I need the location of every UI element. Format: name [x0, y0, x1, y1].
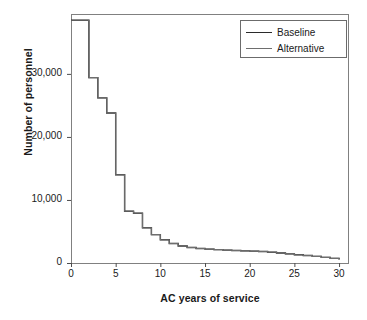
- legend-swatch-baseline: [246, 32, 272, 33]
- y-tick-label: 30,000: [16, 67, 62, 78]
- legend-swatch-alternative: [246, 48, 272, 49]
- x-tick-label: 25: [274, 268, 314, 279]
- legend-item-alternative: Alternative: [246, 40, 324, 56]
- x-tick-label: 20: [230, 268, 270, 279]
- legend-label-baseline: Baseline: [277, 27, 315, 38]
- chart-legend: Baseline Alternative: [240, 20, 347, 58]
- x-axis-label: AC years of service: [71, 292, 349, 304]
- x-tick-label: 30: [319, 268, 359, 279]
- legend-item-baseline: Baseline: [246, 24, 315, 40]
- x-tick-label: 5: [96, 268, 136, 279]
- x-tick-label: 0: [51, 268, 91, 279]
- x-tick-label: 15: [185, 268, 225, 279]
- y-tick-label: 0: [16, 256, 62, 267]
- y-tick-label: 10,000: [16, 193, 62, 204]
- chart-figure: Number of personnel AC years of service …: [0, 0, 367, 320]
- y-axis-label: Number of personnel: [22, 12, 34, 192]
- legend-label-alternative: Alternative: [277, 43, 324, 54]
- x-tick-label: 10: [140, 268, 180, 279]
- y-tick-label: 20,000: [16, 130, 62, 141]
